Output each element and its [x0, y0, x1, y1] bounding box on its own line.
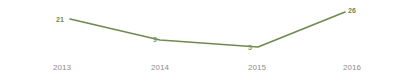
x-axis-tick-2013: 2013: [53, 64, 71, 72]
line-chart: 21 9 5 26 2013 2014 2015 2016: [0, 0, 406, 83]
data-point-label-2014: 9: [153, 36, 157, 43]
x-axis-tick-2016: 2016: [343, 64, 361, 72]
x-axis-tick-2015: 2015: [248, 64, 266, 72]
data-point-label-2016: 26: [348, 7, 356, 14]
data-point-label-2013: 21: [56, 16, 64, 23]
data-series-line: [70, 12, 345, 47]
x-axis-tick-2014: 2014: [151, 64, 169, 72]
data-point-label-2015: 5: [248, 44, 252, 51]
